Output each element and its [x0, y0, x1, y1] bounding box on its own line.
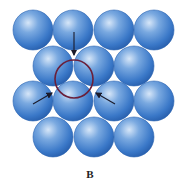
sphere [134, 81, 174, 121]
sphere [53, 81, 93, 121]
sphere [134, 10, 174, 50]
sphere [13, 10, 53, 50]
sphere [33, 117, 73, 157]
sphere [114, 46, 154, 86]
sphere [94, 10, 134, 50]
sphere [13, 81, 53, 121]
sphere [74, 117, 114, 157]
sphere [33, 46, 73, 86]
sphere [114, 117, 154, 157]
sphere [74, 46, 114, 86]
sphere-layer [13, 10, 174, 157]
sphere [53, 10, 93, 50]
figure-label: B [84, 168, 96, 180]
close-packed-spheres-diagram [0, 0, 187, 183]
sphere [94, 81, 134, 121]
